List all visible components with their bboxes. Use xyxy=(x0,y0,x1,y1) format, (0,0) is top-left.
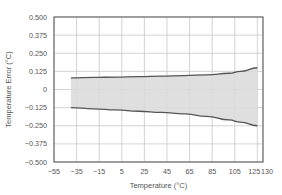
temperature-error-chart: 0.5000.3750.2500.1250−0.125−0.250−0.375−… xyxy=(0,0,282,195)
x-tick-label: −15 xyxy=(93,167,105,176)
x-tick-label: 105 xyxy=(229,167,241,176)
y-tick-label: 0.375 xyxy=(29,31,47,40)
y-tick-label: 0 xyxy=(43,85,47,94)
x-tick-label: 125 xyxy=(248,167,260,176)
x-tick-label: 5 xyxy=(120,167,124,176)
y-axis-label: Temperature Error (°C) xyxy=(4,51,13,128)
y-tick-label: 0.500 xyxy=(29,13,47,22)
x-tick-label: −35 xyxy=(70,167,82,176)
y-tick-label: −0.375 xyxy=(25,139,47,148)
y-tick-label: 0.125 xyxy=(29,67,47,76)
x-tick-label: 130 xyxy=(261,167,273,176)
y-tick-label: −0.250 xyxy=(25,121,47,130)
x-axis-ticks: −55−35−15525456585105125130 xyxy=(48,167,273,176)
y-tick-label: −0.500 xyxy=(25,158,47,167)
x-axis-label: Temperature (°C) xyxy=(130,181,188,190)
y-axis-ticks: 0.5000.3750.2500.1250−0.125−0.250−0.375−… xyxy=(25,13,47,167)
x-tick-label: 85 xyxy=(208,167,216,176)
y-tick-label: 0.250 xyxy=(29,49,47,58)
x-tick-label: 45 xyxy=(163,167,171,176)
x-tick-label: 65 xyxy=(186,167,194,176)
y-tick-label: −0.125 xyxy=(25,103,47,112)
x-tick-label: 25 xyxy=(140,167,148,176)
x-tick-label: −55 xyxy=(48,167,60,176)
